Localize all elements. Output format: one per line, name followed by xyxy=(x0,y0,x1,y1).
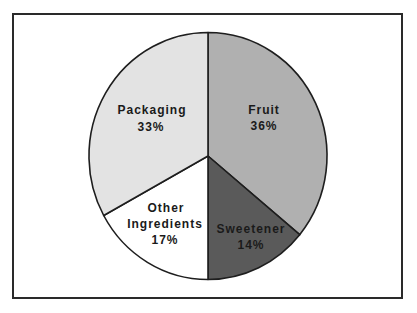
label-fruit-pct: 36% xyxy=(250,119,277,133)
label-sweetener-pct: 14% xyxy=(237,238,264,252)
label-sweetener-name: Sweetener xyxy=(216,222,285,236)
label-other-name-line2: Ingredients xyxy=(127,217,203,231)
pie-chart: Packaging 33% Fruit 36% Other Ingredient… xyxy=(0,0,417,313)
label-packaging-name: Packaging xyxy=(117,103,186,117)
label-other-name-line1: Other xyxy=(147,201,184,215)
label-packaging-pct: 33% xyxy=(137,120,164,134)
label-other-pct: 17% xyxy=(151,233,178,247)
label-fruit-name: Fruit xyxy=(248,103,280,117)
